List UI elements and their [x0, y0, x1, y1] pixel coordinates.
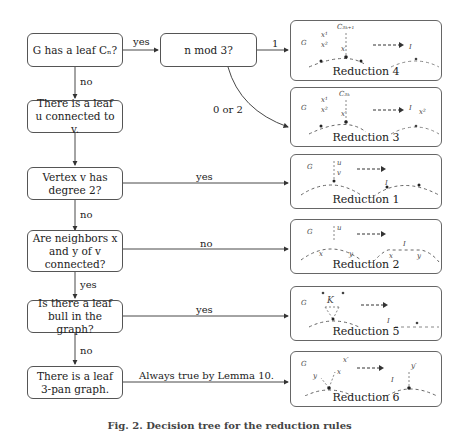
svg-text:I: I — [408, 43, 412, 51]
reduction-2-box: G u xy I xy Reduction 2 — [290, 219, 442, 274]
edge-label-nb-no: no — [200, 238, 212, 249]
edge-label-deg-no: no — [80, 209, 92, 220]
svg-text:x: x — [319, 250, 323, 258]
decision-degree-2: Vertex v has degree 2? — [27, 167, 123, 200]
decision-text: Vertex v has degree 2? — [32, 171, 118, 197]
decision-text: There is a leaf 3-pan graph. — [32, 370, 118, 396]
figure-caption: Fig. 2. Decision tree for the reduction … — [0, 420, 459, 431]
reduction-2-graph: G u xy I xy — [291, 220, 443, 262]
decision-leaf-u: There is a leaf u connected to v. — [27, 100, 123, 133]
svg-text:u: u — [337, 159, 342, 167]
edge-label-nb-yes: yes — [80, 279, 97, 290]
edge-label-deg-yes: yes — [196, 171, 213, 182]
svg-text:x²: x² — [321, 41, 328, 49]
edge-label-bull-no: no — [80, 345, 92, 356]
decision-n-mod-3: n mod 3? — [160, 33, 257, 67]
svg-text:I: I — [408, 104, 412, 112]
svg-text:y: y — [348, 250, 354, 258]
svg-text:G: G — [307, 163, 313, 171]
svg-text:x²: x² — [321, 106, 328, 114]
reduction-3-label: Reduction 3 — [291, 131, 441, 144]
svg-text:G: G — [301, 360, 307, 368]
decision-leaf-3pan: There is a leaf 3-pan graph. — [27, 366, 123, 399]
edge-label-bull-yes: yes — [196, 304, 213, 315]
svg-text:I: I — [386, 317, 390, 325]
edge-label-cn-yes: yes — [133, 36, 150, 47]
svg-text:u: u — [337, 224, 342, 232]
reduction-3-box: G C₃ₖ x¹x²x′ I x² Reduction 3 — [290, 87, 442, 147]
reduction-6-graph: G x′xy I y′ — [291, 352, 443, 396]
svg-text:G: G — [301, 104, 307, 112]
edge-label-mod-0-or-2: 0 or 2 — [213, 104, 243, 115]
svg-text:I: I — [390, 376, 394, 384]
reduction-2-label: Reduction 2 — [291, 258, 441, 271]
edge-label-mod-1: 1 — [272, 38, 278, 49]
edge-label-cn-no: no — [80, 76, 92, 87]
decision-text: Is there a leaf bull in the graph? — [32, 297, 118, 336]
reduction-4-label: Reduction 4 — [291, 65, 441, 78]
svg-text:G: G — [301, 39, 307, 47]
decision-leaf-cn: G has a leaf Cₙ? — [27, 33, 123, 67]
svg-text:y′: y′ — [410, 362, 417, 370]
decision-leaf-bull: Is there a leaf bull in the graph? — [27, 300, 123, 333]
svg-text:x: x — [337, 368, 341, 376]
decision-neighbors-connected: Are neighbors x and y of v connected? — [27, 230, 123, 272]
reduction-5-box: G K I Reduction 5 — [290, 286, 442, 341]
edge-label-pan-always: Always true by Lemma 10. — [139, 370, 274, 381]
svg-text:x′: x′ — [343, 356, 349, 364]
svg-text:G: G — [301, 299, 307, 307]
reduction-1-label: Reduction 1 — [291, 193, 441, 206]
reduction-3-graph: G C₃ₖ x¹x²x′ I x² — [291, 88, 443, 136]
svg-text:G: G — [307, 228, 313, 236]
svg-text:y: y — [312, 372, 318, 380]
reduction-5-label: Reduction 5 — [291, 325, 441, 338]
reduction-1-graph: G uv I — [291, 155, 443, 197]
svg-text:K: K — [326, 295, 335, 305]
svg-text:C₃ₖ: C₃ₖ — [339, 90, 350, 98]
reduction-6-label: Reduction 6 — [291, 391, 441, 404]
svg-text:x²: x² — [419, 108, 426, 116]
reduction-4-graph: G C₃ₖ₊₁ x¹x²x′ I — [291, 21, 443, 69]
decision-text: G has a leaf Cₙ? — [33, 44, 117, 57]
reduction-6-box: G x′xy I y′ Reduction 6 — [290, 351, 442, 407]
svg-text:x¹: x¹ — [321, 96, 328, 104]
decision-text: There is a leaf u connected to v. — [32, 97, 118, 136]
svg-text:I: I — [402, 240, 406, 248]
svg-text:v: v — [337, 169, 341, 177]
reduction-5-graph: G K I — [291, 287, 443, 329]
decision-text: n mod 3? — [184, 44, 233, 57]
reduction-1-box: G uv I Reduction 1 — [290, 154, 442, 209]
svg-text:x¹: x¹ — [321, 31, 328, 39]
svg-text:C₃ₖ₊₁: C₃ₖ₊₁ — [337, 23, 354, 31]
decision-text: Are neighbors x and y of v connected? — [32, 232, 118, 271]
reduction-4-box: G C₃ₖ₊₁ x¹x²x′ I Reduction 4 — [290, 20, 442, 81]
